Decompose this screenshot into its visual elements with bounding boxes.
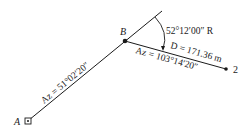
point-b-label: B (120, 26, 126, 37)
azimuth-ab-label: Az = 51°02′20″ (39, 60, 91, 106)
traverse-diagram: A B 2 Az = 51°02′20″ 52°12′00″ R D = 171… (0, 0, 252, 138)
point-a-marker-icon (25, 118, 31, 124)
deflection-angle-arc (155, 17, 165, 49)
point-2-label: 2 (233, 64, 238, 75)
point-2-marker-icon (224, 67, 228, 71)
point-b-marker-icon (123, 39, 128, 44)
arc-arrowhead-icon (161, 46, 165, 51)
line-a-b-extended (29, 11, 162, 120)
point-a-label: A (13, 116, 21, 127)
deflection-angle-label: 52°12′00″ R (166, 26, 214, 36)
